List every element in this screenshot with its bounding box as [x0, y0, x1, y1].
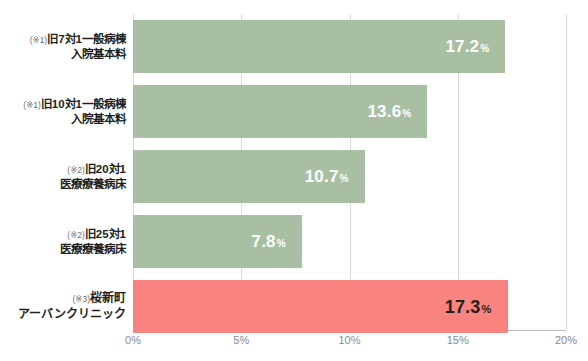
category-label-line1: (※1)旧7対1一般病棟 — [30, 32, 126, 47]
bar[interactable]: 7.8% — [133, 215, 302, 268]
bar-row: (※3)桜新町アーバンクリニック17.3% — [0, 274, 588, 339]
category-label-line1: (※2)旧25対1 — [67, 227, 126, 242]
bar-row: (※2)旧20対1医療療養病床10.7% — [0, 144, 588, 209]
bar-value-unit: % — [402, 108, 411, 119]
x-tick-label: 10% — [338, 334, 360, 346]
bar-track: 13.6% — [133, 85, 566, 138]
category-label-line2: 入院基本料 — [71, 112, 126, 127]
category-label-line2: 入院基本料 — [71, 47, 126, 62]
bar-value-unit: % — [340, 173, 349, 184]
bar-row: (※2)旧25対1医療療養病床7.8% — [0, 209, 588, 274]
category-label: (※2)旧25対1医療療養病床 — [6, 209, 126, 274]
bar-value-unit: % — [480, 43, 489, 54]
bar-row: (※1)旧7対1一般病棟入院基本料17.2% — [0, 14, 588, 79]
category-note: (※3) — [72, 294, 90, 304]
category-label: (※3)桜新町アーバンクリニック — [6, 274, 126, 339]
category-label: (※2)旧20対1医療療養病床 — [6, 144, 126, 209]
cropped-top-text — [0, 0, 588, 7]
bar-value-label: 10.7% — [305, 167, 349, 187]
bar-value-label: 17.3% — [445, 296, 492, 317]
bar[interactable]: 17.2% — [133, 20, 505, 73]
bar[interactable]: 10.7% — [133, 150, 365, 203]
bar-value-unit: % — [482, 302, 492, 314]
category-note: (※1) — [30, 35, 48, 45]
bar-value-label: 13.6% — [367, 102, 411, 122]
category-label-line2: 医療療養病床 — [60, 242, 126, 257]
x-tick-label: 20% — [555, 334, 577, 346]
x-tick-label: 0% — [125, 334, 141, 346]
bar-value-unit: % — [277, 238, 286, 249]
x-tick-label: 15% — [447, 334, 469, 346]
bar[interactable]: 13.6% — [133, 85, 427, 138]
bar-value-label: 17.2% — [445, 37, 489, 57]
x-tick-label: 5% — [233, 334, 249, 346]
category-note: (※2) — [67, 230, 85, 240]
category-note: (※1) — [23, 100, 41, 110]
category-note: (※2) — [67, 165, 85, 175]
bar-track: 17.2% — [133, 20, 566, 73]
x-axis-ticks: 0%5%10%15%20% — [0, 334, 588, 354]
category-label: (※1)旧7対1一般病棟入院基本料 — [6, 14, 126, 79]
category-label-line1: (※3)桜新町 — [72, 291, 126, 306]
bar-rows: (※1)旧7対1一般病棟入院基本料17.2%(※1)旧10対1一般病棟入院基本料… — [0, 14, 588, 339]
bar-track: 17.3% — [133, 280, 566, 333]
bar-track: 7.8% — [133, 215, 566, 268]
category-label-line1: (※1)旧10対1一般病棟 — [23, 97, 126, 112]
bar-chart: (※1)旧7対1一般病棟入院基本料17.2%(※1)旧10対1一般病棟入院基本料… — [0, 0, 588, 361]
category-label-line2: アーバンクリニック — [18, 307, 126, 322]
bar-value-label: 7.8% — [252, 232, 286, 252]
bar-highlight[interactable]: 17.3% — [133, 280, 508, 333]
category-label-line2: 医療療養病床 — [60, 177, 126, 192]
category-label-line1: (※2)旧20対1 — [67, 162, 126, 177]
bar-row: (※1)旧10対1一般病棟入院基本料13.6% — [0, 79, 588, 144]
category-label: (※1)旧10対1一般病棟入院基本料 — [6, 79, 126, 144]
bar-track: 10.7% — [133, 150, 566, 203]
